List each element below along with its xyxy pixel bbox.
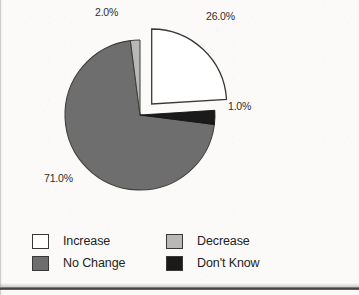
legend-item-decrease[interactable]: Decrease (166, 234, 250, 249)
legend-label-dont-know: Don't Know (197, 256, 260, 270)
legend-row: No Change Don't Know (32, 252, 332, 274)
pie-label-decrease: 2.0% (95, 6, 118, 18)
chart-page: 26.0% 2.0% 1.0% 71.0% Increase Decrease … (0, 0, 359, 295)
legend-item-increase[interactable]: Increase (32, 234, 166, 249)
legend-swatch-no-change-icon (32, 256, 49, 271)
pie-slice-increase-group[interactable] (152, 29, 227, 104)
legend-item-no-change[interactable]: No Change (32, 256, 166, 271)
pie-label-increase: 26.0% (206, 10, 235, 22)
pie-label-dont-know: 1.0% (228, 100, 251, 112)
pie-slice-increase[interactable] (152, 29, 227, 104)
legend-row: Increase Decrease (32, 230, 332, 252)
legend-label-decrease: Decrease (197, 234, 250, 248)
chart-legend: Increase Decrease No Change Don't Know (32, 230, 332, 274)
page-bottom-rule (0, 287, 359, 290)
pie-chart-svg (0, 0, 359, 220)
pie-label-no-change: 71.0% (44, 172, 73, 184)
legend-swatch-increase-icon (32, 234, 49, 249)
pie-chart: 26.0% 2.0% 1.0% 71.0% (0, 0, 359, 220)
legend-label-increase: Increase (63, 234, 110, 248)
legend-swatch-dont-know-icon (166, 256, 183, 271)
legend-item-dont-know[interactable]: Don't Know (166, 256, 260, 271)
legend-label-no-change: No Change (63, 256, 125, 270)
legend-swatch-decrease-icon (166, 234, 183, 249)
